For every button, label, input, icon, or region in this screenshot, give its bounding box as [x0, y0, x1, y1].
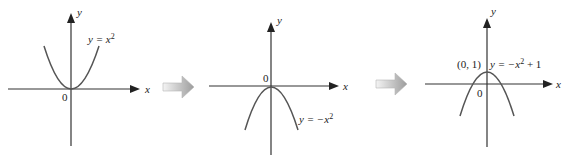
origin-label: 0: [62, 91, 68, 103]
right-arrow-icon: [163, 76, 194, 98]
y-axis-label: y: [276, 14, 282, 26]
y-axis-label: y: [490, 5, 496, 17]
y-axis-arrowhead-icon: [267, 22, 275, 32]
right-arrow-icon: [376, 73, 407, 95]
x-axis-arrowhead-icon: [329, 82, 339, 90]
x-axis-arrowhead-icon: [130, 85, 140, 93]
parabola-transformation-diagram: y x 0 y = x2 y x 0 y = −x2 y x 0 (0, 1) …: [0, 0, 565, 161]
panel-y-equals-x-squared: y x 0 y = x2: [8, 6, 150, 146]
origin-label: 0: [263, 72, 269, 84]
x-axis-arrowhead-icon: [543, 80, 553, 88]
y-axis-arrowhead-icon: [483, 18, 491, 28]
panel-y-equals-negative-x-squared-plus-one: y x 0 (0, 1) y = −x2 + 1: [425, 5, 561, 147]
y-axis-label: y: [76, 6, 82, 18]
origin-label: 0: [477, 87, 483, 99]
x-axis-label: x: [555, 78, 561, 90]
x-axis-label: x: [342, 80, 348, 92]
equation-label: y = x2: [87, 32, 115, 45]
equation-label: y = −x2 + 1: [489, 57, 541, 70]
vertex-point-label: (0, 1): [457, 58, 481, 71]
panel-y-equals-negative-x-squared: y x 0 y = −x2: [209, 14, 348, 155]
x-axis-label: x: [144, 83, 150, 95]
equation-label: y = −x2: [298, 112, 333, 125]
y-axis-arrowhead-icon: [67, 13, 75, 23]
